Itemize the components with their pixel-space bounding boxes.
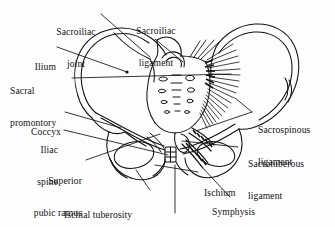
leader-sacrospinous (235, 98, 252, 112)
label-sacroiliac-ligament-line1: Sacroiliac (120, 26, 192, 37)
right-ilium-notch (285, 78, 288, 100)
label-sacral-promontory-line1: Sacral (10, 86, 90, 97)
label-sacrotuberous-ligament: Sacrotuberous ligament (248, 138, 334, 223)
label-sacrotuberous-ligament-line2: ligament (248, 191, 334, 202)
pelvis-anatomy-figure: Sacroiliac joint Ilium Sacral promontory… (0, 0, 335, 227)
label-sacroiliac-joint-line1: Sacroiliac (42, 27, 110, 38)
label-sacroiliac-ligament: Sacroiliac ligament (120, 5, 192, 90)
sacrospinous-ligament-band (189, 128, 214, 151)
label-sacrotuberous-ligament-line1: Sacrotuberous (248, 159, 334, 170)
label-superior-pubic-ramus-line1: Superior (2, 176, 82, 187)
label-sacroiliac-ligament-line2: ligament (120, 58, 192, 69)
label-pubic-arch: Pubic arch (143, 212, 207, 227)
label-sacrospinous-ligament-line1: Sacrospinous (258, 125, 334, 136)
left-superior-pubic-ramus (96, 113, 164, 146)
sacroiliac-ligament-fan-right (200, 44, 240, 128)
